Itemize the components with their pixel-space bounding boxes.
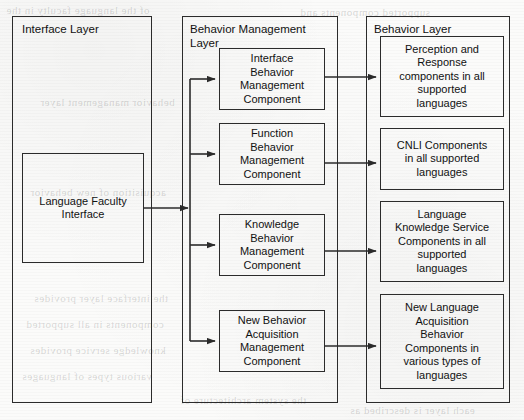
layer-interface-title: Interface Layer [22, 22, 99, 36]
layer-behavior-management-title: Behavior Management Layer [190, 22, 306, 50]
component-language-knowledge-service[interactable]: Language Knowledge Service Components in… [380, 201, 504, 282]
component-interface-behavior-management[interactable]: Interface Behavior Management Component [219, 48, 325, 110]
component-language-faculty-interface[interactable]: Language Faculty Interface [22, 153, 144, 263]
component-new-behavior-acquisition-management[interactable]: New Behavior Acquisition Management Comp… [219, 310, 325, 372]
component-knowledge-behavior-management[interactable]: Knowledge Behavior Management Component [219, 214, 325, 276]
diagram-canvas: of the language faculty in the supported… [0, 0, 524, 420]
bleed-text: of the language faculty in the [6, 4, 150, 16]
component-cnli[interactable]: CNLI Components in all supported languag… [380, 128, 504, 190]
component-new-language-acquisition-behavior[interactable]: New Language Acquisition Behavior Compon… [380, 294, 504, 389]
bleed-text: each layer is described as [350, 404, 475, 416]
component-function-behavior-management[interactable]: Function Behavior Management Component [219, 123, 325, 185]
layer-behavior-title: Behavior Layer [374, 22, 451, 36]
component-perception-response[interactable]: Perception and Response components in al… [380, 36, 504, 117]
